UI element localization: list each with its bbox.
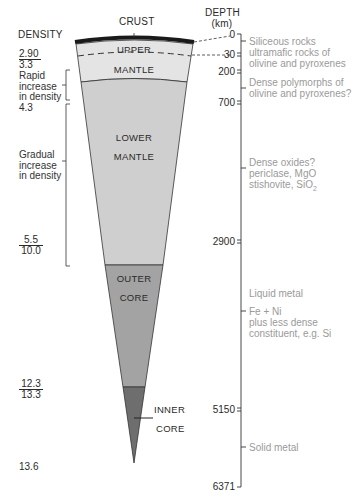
composition-outer-core-state: Liquid metal — [249, 288, 303, 299]
density-value-center: 13.6 — [19, 462, 38, 472]
depth-unit: (km) — [207, 18, 237, 29]
composition-inner-core: Solid metal — [249, 442, 298, 453]
depth-200: 200 — [199, 66, 235, 77]
gradual-increase-bracket — [62, 104, 70, 266]
composition-transition-zone: Dense polymorphs of olivine and pyroxene… — [249, 77, 351, 99]
gradual-increase-note: Gradual increase in density — [19, 150, 61, 182]
rapid-increase-bracket — [62, 70, 70, 100]
lower-mantle-label-lower: LOWER — [110, 132, 158, 143]
density-value-upper-mantle: 3.3 — [19, 59, 33, 70]
depth-header: DEPTH — [205, 7, 239, 18]
depth-2900: 2900 — [199, 236, 235, 247]
composition-crust: Siliceous rocks — [249, 36, 316, 47]
inner-core-region — [123, 387, 145, 463]
density-value-inner-core-top: 13.3 — [21, 389, 40, 400]
density-crust-mantle: 2.90 3.3 — [19, 49, 41, 70]
composition-lower-mantle: Dense oxides? periclase, MgO stishovite,… — [249, 157, 317, 194]
density-value-outer-core-top: 10.0 — [21, 245, 40, 256]
depth-axis — [237, 34, 246, 487]
inner-core-label-inner: INNER — [154, 404, 185, 415]
outer-core-label-outer: OUTER — [110, 273, 158, 284]
inner-core-label-core: CORE — [156, 423, 185, 434]
outer-core-label-core: CORE — [110, 292, 158, 303]
rapid-increase-note: Rapid increase in density — [19, 71, 61, 103]
crust-label: CRUST — [119, 16, 154, 27]
density-value-700km: 4.3 — [19, 103, 33, 113]
depth-6371: 6371 — [199, 481, 235, 492]
density-mantle-core: 5.5 10.0 — [19, 235, 43, 256]
composition-outer-core: Fe + Ni plus less dense constituent, e.g… — [249, 306, 331, 339]
composition-upper-mantle: ultramafic rocks of olivine and pyroxene… — [249, 47, 346, 69]
depth-0: 0 — [199, 29, 235, 40]
density-outer-inner: 12.3 13.3 — [19, 379, 43, 400]
depth-5150: 5150 — [199, 404, 235, 415]
upper-mantle-label-mantle: MANTLE — [106, 64, 162, 75]
upper-mantle-label-upper: UPPER — [110, 44, 158, 55]
lower-mantle-region — [81, 79, 187, 266]
lower-mantle-label-mantle: MANTLE — [106, 151, 162, 162]
depth-30: 30 — [199, 49, 235, 60]
depth-700: 700 — [199, 97, 235, 108]
density-header: DENSITY — [18, 29, 63, 40]
